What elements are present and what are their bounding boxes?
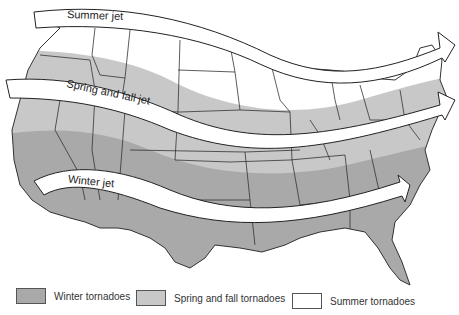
legend-item-spring-fall: Spring and fall tornadoes (136, 290, 285, 306)
summer-jet-label: Summer jet (67, 8, 124, 22)
legend: Winter tornadoes Spring and fall tornado… (0, 288, 459, 312)
winter-swatch (16, 288, 46, 304)
legend-label-summer: Summer tornadoes (330, 296, 415, 307)
legend-item-winter: Winter tornadoes (16, 288, 130, 304)
us-map (0, 0, 459, 315)
legend-label-spring-fall: Spring and fall tornadoes (174, 293, 285, 304)
legend-label-winter: Winter tornadoes (54, 291, 130, 302)
summer-swatch (292, 293, 322, 309)
spring-fall-swatch (136, 290, 166, 306)
legend-item-summer: Summer tornadoes (292, 293, 415, 309)
